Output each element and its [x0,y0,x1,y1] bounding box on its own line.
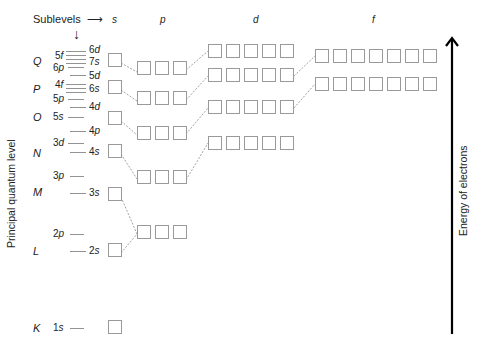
connector-line [121,154,137,179]
connector-line [294,84,315,108]
principal-level-O: O [33,112,42,122]
sublevel-label-6s: 6s [89,84,100,94]
connector-line [186,143,208,180]
orbital-box [244,68,258,82]
orbital-box [108,187,122,201]
orbital-box [155,170,169,184]
orbital-box [155,91,169,105]
orbital-box [137,61,151,75]
sublevel-label-5f: 5f [55,51,63,61]
connector-line [121,234,137,253]
sublevel-label-3p: 3p [53,171,64,181]
principal-level-P: P [33,84,40,94]
sublevel-label-6p: 6p [53,63,64,73]
sublevel-label-5s: 5s [53,112,64,122]
sublevel-label-5d: 5d [89,71,100,81]
connector-line [186,51,208,70]
principal-level-Q: Q [33,56,42,66]
connector-line [121,63,137,72]
principal-level-M: M [33,187,42,197]
connector-line [121,121,137,135]
energy-level-ticks [66,52,86,329]
orbital-box [244,136,258,150]
column-header-d: d [253,14,259,25]
orbital-box [423,49,437,63]
right-arrow-icon: ⟶ [87,13,103,25]
orbital-box [280,136,294,150]
orbital-box [387,77,401,91]
orbital-box [280,68,294,82]
orbital-box [387,49,401,63]
orbital-box [315,77,329,91]
orbital-box [351,49,365,63]
column-header-s: s [112,14,117,25]
orbital-box [280,100,294,114]
orbital-box [405,77,419,91]
orbital-box [226,100,240,114]
sublevels-label: Sublevels [33,13,81,25]
column-header-f: f [372,14,375,25]
connector-line [121,90,137,101]
orbital-box [137,126,151,140]
down-arrow-icon: ↓ [73,27,80,41]
orbital-box [262,100,276,114]
orbital-box [108,144,122,158]
sublevel-label-2p: 2p [53,229,64,239]
orbital-box [226,44,240,58]
orbital-box [351,77,365,91]
orbital-box [208,100,222,114]
orbital-box [226,136,240,150]
orbital-box [369,77,383,91]
sublevel-label-1s: 1s [53,323,64,333]
sublevel-label-4s: 4s [89,147,100,157]
sublevel-label-2s: 2s [89,246,100,256]
orbital-box [405,49,419,63]
orbital-box [137,91,151,105]
orbital-box [155,61,169,75]
orbital-box [137,225,151,239]
principal-level-L: L [33,246,39,256]
orbital-box [173,126,187,140]
energy-of-electrons-axis-label: Energy of electrons [457,146,469,236]
sublevel-label-6d: 6d [89,45,100,55]
orbital-box [137,170,151,184]
orbital-box [108,320,122,334]
orbital-box [173,170,187,184]
principal-level-N: N [33,148,41,158]
orbital-box [333,49,347,63]
sublevel-label-4d: 4d [89,102,100,112]
orbital-box [208,136,222,150]
orbital-box [173,61,187,75]
orbital-box [333,77,347,91]
orbital-box [173,225,187,239]
orbital-box [108,111,122,125]
orbital-box [108,243,122,257]
orbital-box [244,100,258,114]
connector-line [186,76,208,100]
orbital-box [244,44,258,58]
orbital-box [262,136,276,150]
sublevel-label-4p: 4p [89,126,100,136]
column-header-p: p [160,14,166,25]
orbital-box [315,49,329,63]
orbital-box [369,49,383,63]
sublevels-header: Sublevels ⟶ [33,14,103,24]
orbital-box [423,77,437,91]
orbital-box [280,44,294,58]
sublevel-label-7s: 7s [89,57,100,67]
connector-line [294,56,315,76]
orbital-box [155,225,169,239]
sublevel-label-4f: 4f [55,80,63,90]
orbital-box [226,68,240,82]
orbital-box [173,91,187,105]
orbital-box [108,53,122,67]
principal-quantum-level-axis-label: Principal quantum level [5,139,17,248]
connector-line [186,108,208,134]
orbital-box [262,44,276,58]
orbital-box [208,68,222,82]
orbital-box [155,126,169,140]
orbital-energy-diagram: Sublevels ⟶ ↓ spdf QPONMLK 5f6p6d7s5d4f6… [0,0,477,350]
connector-line [121,197,137,234]
orbital-box [262,68,276,82]
sublevel-label-3s: 3s [89,188,100,198]
